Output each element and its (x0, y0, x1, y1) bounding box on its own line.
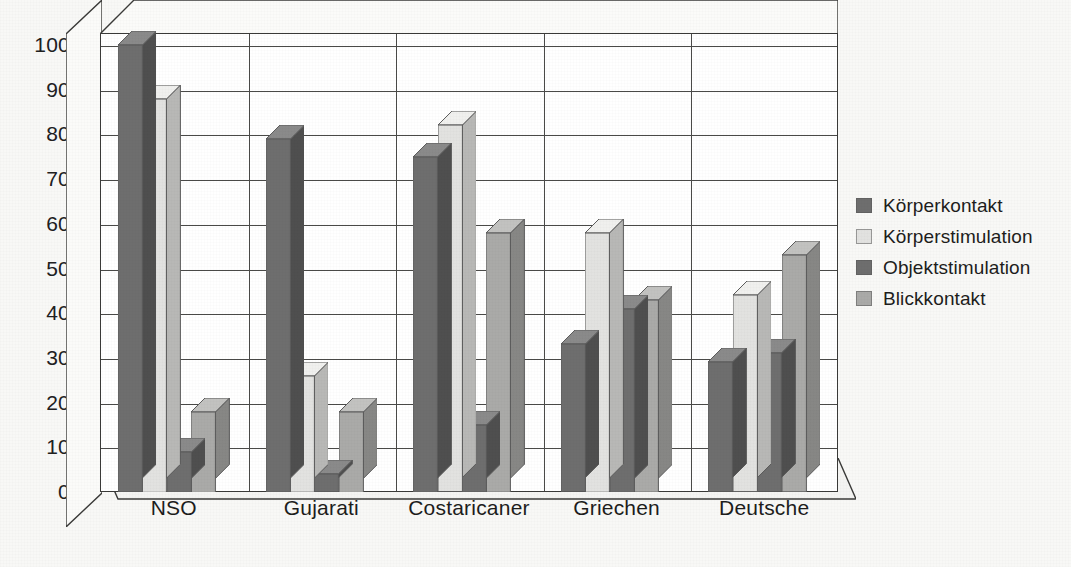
legend-swatch-icon (856, 291, 872, 306)
y-axis-tick-label: 30 (18, 346, 70, 370)
category-separator (396, 34, 397, 491)
gridline (101, 404, 837, 405)
y-axis-tick-label: 50 (18, 257, 70, 281)
gridline (101, 91, 837, 92)
legend-swatch-icon (856, 198, 872, 213)
y-axis-tick-label: 20 (18, 391, 70, 415)
gridline (101, 359, 837, 360)
chart-figure: 1009080706050403020100 NSOGujaratiCostar… (0, 0, 1071, 567)
x-axis-tick-label: Gujarati (248, 496, 396, 520)
x-axis-tick-label: Costaricaner (395, 496, 543, 520)
y-axis-tick-label: 40 (18, 301, 70, 325)
gridline (101, 314, 837, 315)
y-axis-tick-label: 60 (18, 212, 70, 236)
legend-item: Körperkontakt (856, 190, 1033, 221)
legend-label: Objektstimulation (883, 257, 1030, 279)
category-separator (544, 34, 545, 491)
x-axis-tick-label: Griechen (543, 496, 691, 520)
x-axis-tick-label: Deutsche (690, 496, 838, 520)
category-separator (249, 34, 250, 491)
legend-label: Blickkontakt (883, 288, 986, 310)
chart-left-wall (66, 0, 102, 527)
plot-area (100, 33, 838, 492)
chart-legend: KörperkontaktKörperstimulationObjektstim… (856, 190, 1033, 314)
gridline (101, 180, 837, 181)
y-axis: 1009080706050403020100 (8, 0, 70, 567)
legend-swatch-icon (856, 260, 872, 275)
gridline (101, 135, 837, 136)
legend-item: Objektstimulation (856, 252, 1033, 283)
legend-item: Blickkontakt (856, 283, 1033, 314)
gridline (101, 270, 837, 271)
gridline (101, 225, 837, 226)
y-axis-tick-label: 0 (18, 480, 70, 504)
chart-top-wall (100, 0, 838, 34)
y-axis-tick-label: 10 (18, 435, 70, 459)
category-separator (691, 34, 692, 491)
y-axis-tick-label: 90 (18, 78, 70, 102)
y-axis-tick-label: 70 (18, 167, 70, 191)
gridline (101, 46, 837, 47)
x-axis-tick-label: NSO (100, 496, 248, 520)
legend-label: Körperstimulation (883, 226, 1033, 248)
y-axis-tick-label: 80 (18, 122, 70, 146)
legend-item: Körperstimulation (856, 221, 1033, 252)
gridline (101, 448, 837, 449)
y-axis-tick-label: 100 (18, 33, 70, 57)
legend-swatch-icon (856, 229, 872, 244)
legend-label: Körperkontakt (883, 195, 1003, 217)
